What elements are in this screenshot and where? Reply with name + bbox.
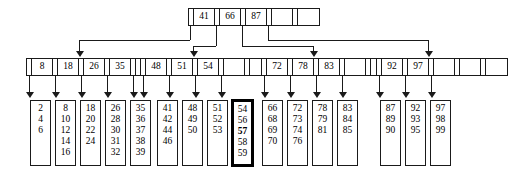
- edge-internal-3-to-leaf-11-line: [290, 76, 291, 93]
- internal-node-3[interactable]: 727883: [261, 58, 393, 76]
- leaf-node-4[interactable]: 2628303132: [105, 100, 126, 166]
- leaf-node-5-value-3: 37: [136, 125, 146, 136]
- leaf-node-13-value-2: 84: [343, 114, 353, 125]
- leaf-node-16-value-1: 97: [436, 103, 446, 114]
- internal-node-1-key-3: 26: [84, 59, 105, 75]
- root-node-empty-4: [272, 9, 293, 25]
- edge-internal-3-to-leaf-13-line: [342, 76, 343, 93]
- internal-node-3-key-1: 72: [267, 59, 288, 75]
- edge-root-to-internal-3-bus: [242, 46, 313, 47]
- leaf-node-10-value-4: 70: [268, 136, 278, 147]
- root-node[interactable]: 416687: [188, 8, 320, 26]
- edge-internal-3-to-leaf-11-arrowhead: [287, 92, 295, 98]
- leaf-node-2[interactable]: 810121416: [55, 100, 76, 166]
- edge-internal-4-to-leaf-14-line: [379, 76, 380, 93]
- leaf-node-2-value-1: 8: [63, 103, 68, 114]
- edge-internal-2-to-leaf-6-line: [143, 76, 144, 93]
- edge-internal-3-to-leaf-10-arrowhead: [261, 92, 269, 98]
- leaf-node-1[interactable]: 246: [30, 100, 51, 166]
- leaf-node-4-value-3: 30: [111, 125, 121, 136]
- leaf-node-7[interactable]: 484950: [182, 100, 203, 166]
- edge-internal-4-to-leaf-15-line: [405, 76, 406, 93]
- edge-root-to-internal-1-drop: [190, 26, 191, 40]
- edge-internal-1-to-leaf-3-arrowhead: [78, 92, 86, 98]
- leaf-node-12[interactable]: 787981: [312, 100, 333, 166]
- leaf-node-6-value-1: 41: [163, 103, 173, 114]
- leaf-node-10-value-3: 69: [268, 125, 278, 136]
- edge-internal-1-to-leaf-4-line: [107, 76, 108, 93]
- leaf-node-8-value-3: 53: [213, 125, 223, 136]
- leaf-node-14-value-2: 89: [386, 114, 396, 125]
- internal-node-1-key-2: 18: [58, 59, 79, 75]
- leaf-node-2-value-3: 12: [61, 125, 71, 136]
- leaf-node-9[interactable]: 5456575859: [232, 100, 253, 166]
- internal-node-3-key-3: 83: [319, 59, 340, 75]
- edge-internal-1-to-leaf-5-line: [133, 76, 134, 93]
- leaf-node-2-value-5: 16: [61, 147, 71, 158]
- leaf-node-4-value-1: 26: [111, 103, 121, 114]
- leaf-node-12-value-2: 79: [318, 114, 328, 125]
- leaf-node-3[interactable]: 18202224: [80, 100, 101, 166]
- internal-node-4-key-2: 97: [408, 59, 429, 75]
- leaf-node-5-value-1: 35: [136, 103, 146, 114]
- leaf-node-2-value-2: 10: [61, 114, 71, 125]
- leaf-node-6[interactable]: 41424446: [157, 100, 178, 166]
- internal-node-4-empty-3: [434, 59, 455, 75]
- edge-internal-1-to-leaf-1-arrowhead: [26, 92, 34, 98]
- leaf-node-4-value-4: 31: [111, 136, 121, 147]
- internal-node-2-key-2: 51: [172, 59, 193, 75]
- leaf-node-5[interactable]: 3536373839: [130, 100, 151, 166]
- internal-node-2-empty-4: [224, 59, 245, 75]
- leaf-node-13[interactable]: 838485: [337, 100, 358, 166]
- leaf-node-15[interactable]: 929395: [405, 100, 426, 166]
- leaf-node-1-value-1: 2: [38, 103, 43, 114]
- leaf-node-7-value-1: 48: [188, 103, 198, 114]
- edge-internal-2-to-leaf-6-arrowhead: [140, 92, 148, 98]
- leaf-node-14[interactable]: 878990: [380, 100, 401, 166]
- internal-node-2[interactable]: 485154: [140, 58, 272, 76]
- leaf-node-3-value-2: 20: [86, 114, 96, 125]
- leaf-node-6-value-2: 42: [163, 114, 173, 125]
- leaf-node-9-value-3: 57: [238, 126, 248, 137]
- edge-root-to-internal-3-arrowhead: [310, 51, 318, 57]
- root-node-key-3: 87: [246, 9, 267, 25]
- leaf-node-8-value-2: 52: [213, 114, 223, 125]
- internal-node-2-key-3: 54: [198, 59, 219, 75]
- edge-root-to-internal-4-arrowhead: [425, 51, 433, 57]
- internal-node-1[interactable]: 8182635: [26, 58, 158, 76]
- edge-internal-3-to-leaf-12-line: [316, 76, 317, 93]
- leaf-node-7-value-3: 50: [188, 125, 198, 136]
- edge-internal-4-to-leaf-14-arrowhead: [376, 92, 384, 98]
- edge-root-to-internal-2-arrowhead: [190, 51, 198, 57]
- edge-internal-1-to-leaf-4-arrowhead: [104, 92, 112, 98]
- edge-internal-3-to-leaf-12-arrowhead: [313, 92, 321, 98]
- internal-node-4-trailing-cell: [486, 59, 507, 75]
- internal-node-4[interactable]: 9297: [376, 58, 508, 76]
- edge-internal-2-to-leaf-8-line: [195, 76, 196, 93]
- leaf-node-9-value-5: 59: [238, 148, 248, 159]
- leaf-node-11-value-1: 72: [293, 103, 303, 114]
- leaf-node-8[interactable]: 515253: [207, 100, 228, 166]
- leaf-node-14-value-1: 87: [386, 103, 396, 114]
- leaf-node-2-value-4: 14: [61, 136, 71, 147]
- edge-internal-4-to-leaf-16-line: [431, 76, 432, 93]
- edge-internal-3-to-leaf-13-arrowhead: [339, 92, 347, 98]
- leaf-node-6-value-4: 46: [163, 136, 173, 147]
- internal-node-4-empty-4: [460, 59, 481, 75]
- leaf-node-16[interactable]: 979899: [430, 100, 451, 166]
- leaf-node-11[interactable]: 72737476: [287, 100, 308, 166]
- leaf-node-10-value-2: 68: [268, 114, 278, 125]
- leaf-node-11-value-3: 74: [293, 125, 303, 136]
- leaf-node-13-value-3: 85: [343, 125, 353, 136]
- internal-node-3-empty-4: [345, 59, 366, 75]
- edge-root-to-internal-3-drop: [242, 26, 243, 46]
- leaf-node-10[interactable]: 66686970: [262, 100, 283, 166]
- leaf-node-11-value-4: 76: [293, 136, 303, 147]
- leaf-node-12-value-1: 78: [318, 103, 328, 114]
- leaf-node-1-value-2: 4: [38, 114, 43, 125]
- leaf-node-3-value-1: 18: [86, 103, 96, 114]
- edge-root-to-internal-2-drop: [216, 26, 217, 46]
- leaf-node-9-value-1: 54: [238, 104, 248, 115]
- leaf-node-15-value-2: 93: [411, 114, 421, 125]
